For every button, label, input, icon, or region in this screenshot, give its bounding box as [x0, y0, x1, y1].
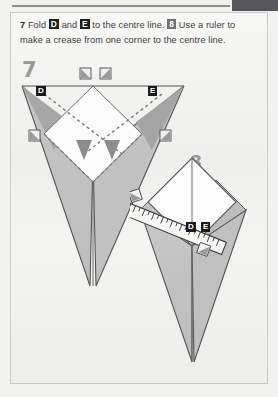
instruction-label-d: D [49, 19, 59, 29]
scanned-page: 7 Fold D and E to the centre line. 8 Use… [0, 0, 278, 397]
figure-8-label-e: E [201, 222, 210, 232]
instruction-fold-word: Fold [28, 20, 46, 30]
instruction-and-word: and [62, 20, 78, 30]
instruction-text: 7 Fold D and E to the centre line. 8 Use… [20, 18, 256, 48]
figure-8-diagram [130, 150, 260, 370]
instruction-centre-line-text: to the centre line. [92, 20, 164, 30]
step-8-inline-number: 8 [167, 19, 176, 29]
top-rule-line [12, 5, 230, 7]
figure-8-label-d: D [186, 222, 196, 232]
instruction-label-e: E [80, 19, 90, 29]
figure-7-label-d: D [36, 86, 46, 96]
figure-7-label-e: E [148, 86, 157, 96]
step-7-inline-number: 7 [20, 20, 25, 30]
page-corner-tab [232, 0, 278, 11]
